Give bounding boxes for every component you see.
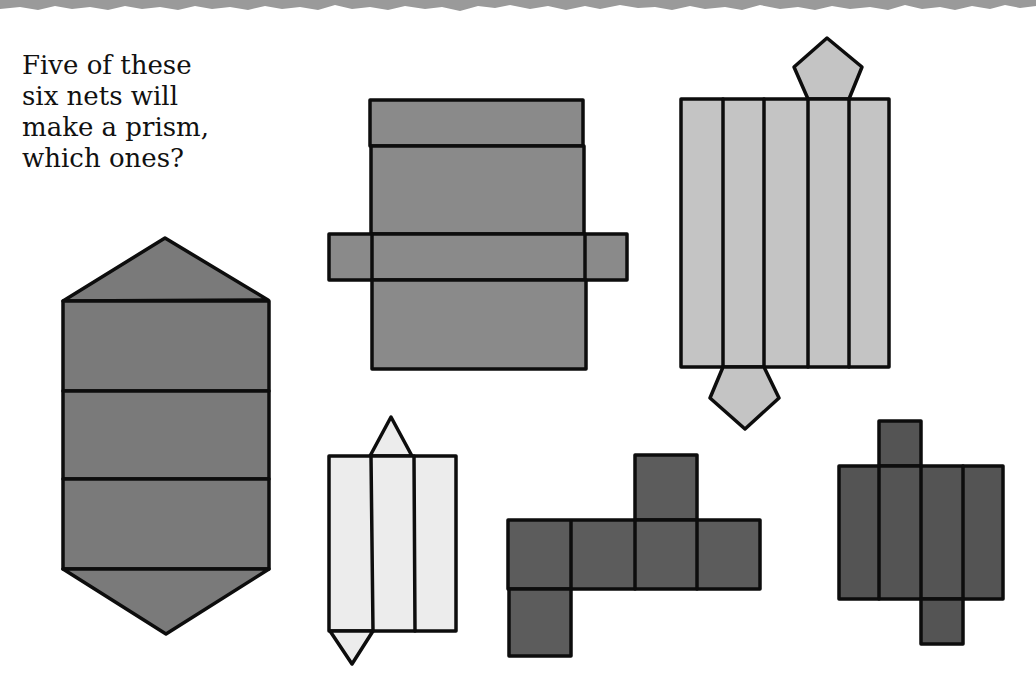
- net-triangular-prism-tall[interactable]: [63, 238, 269, 634]
- net-pentagonal-prism[interactable]: [681, 38, 889, 429]
- net-square-cuboid[interactable]: [839, 421, 1003, 644]
- net-triangular-prism-small[interactable]: [329, 417, 456, 664]
- nets-canvas: [0, 0, 1036, 699]
- net-cube[interactable]: [508, 455, 760, 656]
- net-cuboid-cross[interactable]: [329, 100, 627, 369]
